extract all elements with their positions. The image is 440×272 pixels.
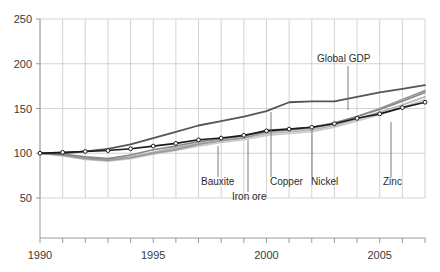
data-point-marker bbox=[197, 138, 201, 142]
data-point-marker bbox=[242, 133, 246, 137]
data-point-marker bbox=[333, 122, 337, 126]
x-axis-tick-label: 2000 bbox=[254, 249, 278, 261]
data-point-marker bbox=[378, 112, 382, 116]
x-axis-tick-label: 2005 bbox=[367, 249, 391, 261]
data-point-marker bbox=[106, 149, 110, 153]
data-point-marker bbox=[355, 116, 359, 120]
chart-container: Global GDPBauxiteIron oreCopperNickelZin… bbox=[0, 0, 440, 272]
x-axis-tick-label: 1995 bbox=[141, 249, 165, 261]
data-point-marker bbox=[423, 100, 427, 104]
annotation-label: Nickel bbox=[311, 176, 338, 187]
y-axis-tick-label: 100 bbox=[14, 147, 32, 159]
data-point-marker bbox=[38, 151, 42, 155]
y-axis-tick-label: 50 bbox=[20, 192, 32, 204]
data-point-marker bbox=[174, 142, 178, 146]
x-axis-tick-label: 1990 bbox=[28, 249, 52, 261]
data-point-marker bbox=[287, 127, 291, 131]
y-axis-tick-label: 250 bbox=[14, 13, 32, 25]
annotation-label: Copper bbox=[270, 176, 303, 187]
y-axis-tick-label: 200 bbox=[14, 58, 32, 70]
annotation-label: Bauxite bbox=[201, 176, 235, 187]
annotation-label: Zinc bbox=[383, 176, 402, 187]
data-point-marker bbox=[400, 106, 404, 110]
annotation-label: Global GDP bbox=[317, 53, 371, 64]
data-point-marker bbox=[129, 147, 133, 151]
y-axis-tick-label: 150 bbox=[14, 103, 32, 115]
data-point-marker bbox=[83, 150, 87, 154]
data-point-marker bbox=[61, 150, 65, 154]
data-point-marker bbox=[151, 144, 155, 148]
data-point-marker bbox=[219, 136, 223, 140]
indexed-line-chart: Global GDPBauxiteIron oreCopperNickelZin… bbox=[0, 0, 440, 272]
annotation-label: Iron ore bbox=[232, 191, 267, 202]
data-point-marker bbox=[265, 129, 269, 133]
